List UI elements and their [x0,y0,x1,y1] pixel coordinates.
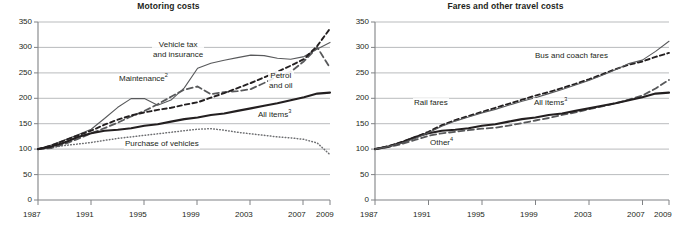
ytick-150-right: 150 [338,119,369,128]
ytick-150-left: 150 [1,119,32,128]
panel-motoring-costs: Motoring costs [0,0,337,233]
label-purchase-of-vehicles: Purchase of vehicles [124,139,200,149]
ytick-0-left: 0 [1,195,32,204]
label-petrol-and-oil: Petrol and oil [268,71,294,90]
label-all-items-footnote-motoring: 3 [288,108,291,114]
xtick-1995-left: 1995 [129,210,147,219]
label-all-items-text-fares: All items [534,98,564,107]
label-all-items-footnote-fares: 3 [564,96,567,102]
ytick-350-left: 350 [1,17,32,26]
xtick-1991-right: 1991 [413,210,431,219]
xtick-2003-left: 2003 [235,210,253,219]
xtick-2009-left: 2009 [316,210,334,219]
xtick-2007-left: 2007 [288,210,306,219]
xtick-2009-right: 2009 [654,210,672,219]
label-bus-and-coach-fares: Bus and coach fares [534,51,609,61]
ytick-0-right: 0 [338,195,369,204]
xtick-1987-left: 1987 [23,210,41,219]
xtick-1999-right: 1999 [520,210,538,219]
panel-fares-and-other-travel-costs: Fares and other travel costs [337,0,674,233]
ytick-250-right: 250 [338,68,369,77]
xtick-2007-right: 2007 [627,210,645,219]
axis-fares [371,22,669,205]
xtick-1991-left: 1991 [76,210,94,219]
xtick-1987-right: 1987 [360,210,378,219]
label-all-items-text-motoring: All items [258,110,288,119]
ytick-100-left: 100 [1,144,32,153]
label-vehicle-tax-line2: and insurance [153,50,203,59]
label-other-text: Other [430,138,450,147]
label-vehicle-tax-and-insurance: Vehicle tax and insurance [152,40,204,59]
ytick-350-right: 350 [338,17,369,26]
figure-two-line-charts: Motoring costs [0,0,674,233]
label-maintenance-text: Maintenance [119,74,165,83]
xtick-1999-left: 1999 [182,210,200,219]
series-other [375,80,669,149]
series-bus-and-coach-fares [375,41,669,149]
ytick-50-left: 50 [1,170,32,179]
series-lines-fares [375,41,669,149]
fares-plot [337,0,674,233]
label-all-items-fares: All items3 [533,98,568,108]
ytick-200-right: 200 [338,93,369,102]
ytick-300-left: 300 [1,42,32,51]
label-rail-fares: Rail fares [413,98,449,108]
xtick-1995-right: 1995 [467,210,485,219]
label-other: Other4 [429,138,454,148]
label-petrol-line1: Petrol [270,71,291,80]
ytick-200-left: 200 [1,93,32,102]
ytick-250-left: 250 [1,68,32,77]
ytick-50-right: 50 [338,170,369,179]
xtick-2003-right: 2003 [574,210,592,219]
label-other-footnote: 4 [450,136,453,142]
label-maintenance-footnote: 2 [165,72,168,78]
label-petrol-line2: and oil [269,81,293,90]
label-all-items-motoring: All items3 [257,110,292,120]
label-maintenance: Maintenance2 [118,74,169,84]
ytick-300-right: 300 [338,42,369,51]
ytick-100-right: 100 [338,144,369,153]
label-vehicle-tax-line1: Vehicle tax [159,40,198,49]
